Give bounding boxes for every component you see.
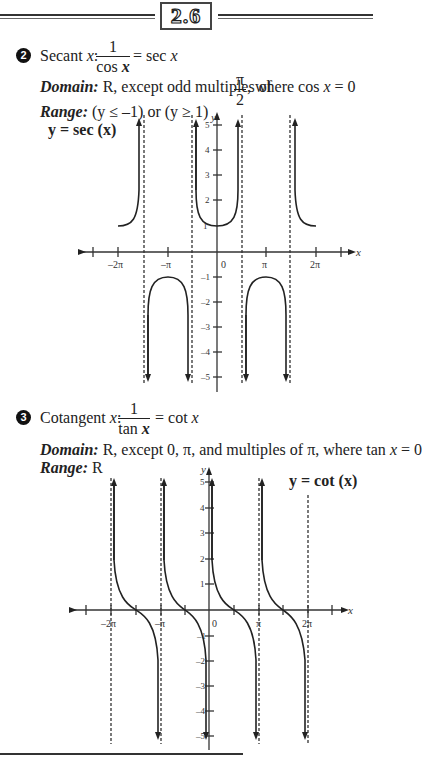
svg-text:5: 5 — [205, 120, 210, 130]
svg-text:–π: –π — [160, 259, 171, 270]
cotangent-fraction: 1 tan x — [118, 400, 150, 437]
domain-var: x — [390, 441, 397, 458]
svg-text:3: 3 — [205, 170, 210, 180]
range-label: Range: — [40, 459, 88, 476]
svg-text:–1: –1 — [200, 272, 210, 282]
svg-text:–2: –2 — [200, 297, 210, 307]
bottom-rule — [0, 753, 243, 755]
svg-text:–5: –5 — [200, 372, 211, 382]
fraction-numerator: 1 — [118, 400, 150, 417]
range-text: R — [88, 459, 103, 476]
denominator-fn: tan — [118, 420, 142, 437]
equals-text: = cot — [155, 409, 192, 426]
cotangent-label-text: Cotangent — [40, 409, 110, 426]
domain-text-end: = 0 — [397, 441, 422, 458]
svg-text:y: y — [210, 111, 216, 123]
svg-text:–2π: –2π — [107, 259, 123, 270]
fraction-denominator: tan x — [118, 420, 150, 437]
cotangent-domain: Domain: R, except 0, π, and multiples of… — [40, 441, 422, 459]
svg-text:4: 4 — [205, 145, 210, 155]
cotangent-equals: = cot x — [155, 409, 199, 427]
svg-text:2π: 2π — [310, 259, 320, 270]
equals-var: x — [192, 409, 199, 426]
svg-text:2: 2 — [205, 195, 210, 205]
cotangent-range: Range: R — [40, 459, 103, 477]
cotangent-label-var: x — [110, 409, 117, 426]
svg-text:–4: –4 — [200, 347, 211, 357]
svg-text:x: x — [355, 246, 361, 258]
bullet-number-3-icon: 3 — [16, 410, 31, 425]
cot-graph-title: y = cot (x) — [289, 472, 357, 490]
bullet-label: 3 — [20, 411, 26, 423]
svg-text:–3: –3 — [200, 322, 211, 332]
cot-title-text: y = cot (x) — [289, 472, 357, 489]
svg-text:π: π — [262, 259, 267, 270]
cotangent-label: Cotangent x: — [40, 409, 121, 427]
denominator-var: x — [142, 420, 150, 437]
domain-label: Domain: — [40, 441, 99, 458]
fraction-bar — [118, 418, 150, 419]
domain-text: R, except 0, π, and multiples of π, wher… — [99, 441, 390, 458]
svg-text:0: 0 — [221, 259, 226, 270]
